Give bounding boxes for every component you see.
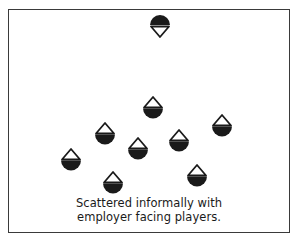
player-icon bbox=[186, 164, 208, 188]
caption-line-2: employer facing players. bbox=[8, 210, 290, 224]
player-icon bbox=[211, 114, 233, 138]
caption-line-1: Scattered informally with bbox=[8, 196, 290, 210]
player-icon bbox=[102, 171, 124, 195]
player-icon bbox=[168, 129, 190, 153]
employer-icon bbox=[149, 14, 171, 38]
diagram-caption: Scattered informally with employer facin… bbox=[8, 196, 290, 224]
player-icon bbox=[60, 148, 82, 172]
player-icon bbox=[142, 96, 164, 120]
player-icon bbox=[127, 137, 149, 161]
player-icon bbox=[94, 122, 116, 146]
